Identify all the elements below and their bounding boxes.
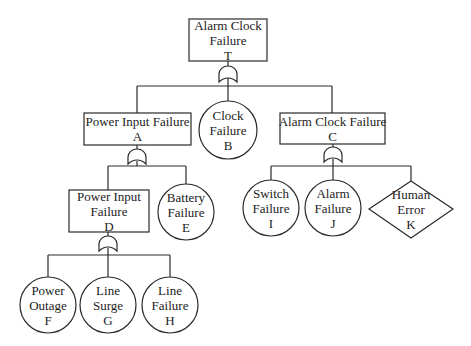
event-label-F: Power Outage F xyxy=(18,283,78,328)
event-label-A: Power Input Failure A xyxy=(84,114,191,144)
event-label-C: Alarm Clock Failure C xyxy=(278,114,387,144)
event-label-T: Alarm Clock Failure T xyxy=(189,18,267,63)
event-label-D: Power Input Failure D xyxy=(69,189,149,234)
event-label-I: Switch Failure I xyxy=(241,186,301,231)
event-label-H: Line Failure H xyxy=(140,283,200,328)
event-label-J: Alarm Failure J xyxy=(303,186,363,231)
event-label-K: Human Error K xyxy=(381,187,441,232)
event-label-E: Battery Failure E xyxy=(156,190,216,235)
event-label-G: Line Surge G xyxy=(78,283,138,328)
event-label-B: Clock Failure B xyxy=(199,108,257,153)
